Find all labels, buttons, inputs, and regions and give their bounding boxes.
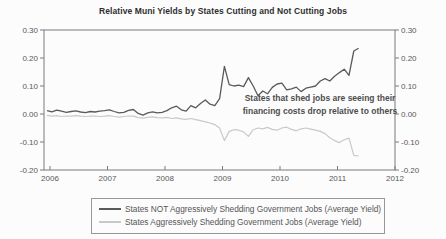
y-axis-label-right: 0.10	[401, 82, 417, 91]
y-axis-label-right: 0.20	[401, 54, 417, 63]
legend-item-shedding: States Aggressively Shedding Government …	[92, 215, 384, 228]
x-axis-label: 2008	[156, 174, 174, 183]
legend-line-swatch-dark	[99, 208, 121, 210]
x-axis-label: 2009	[214, 174, 232, 183]
x-axis-label: 2006	[41, 174, 59, 183]
annotation-line-1: States that shed jobs are seeing their	[238, 92, 402, 105]
x-axis-label: 2010	[271, 174, 289, 183]
series-line-1	[47, 115, 359, 156]
x-axis-label: 2007	[99, 174, 117, 183]
y-axis-label-left: 0.20	[22, 54, 38, 63]
y-axis-label-right: -0.10	[401, 138, 420, 147]
legend-label-shedding: States Aggressively Shedding Government …	[125, 217, 361, 227]
y-axis-label-right: 0.00	[401, 110, 417, 119]
y-axis-label-right: 0.30	[401, 26, 417, 35]
y-axis-label-left: -0.10	[20, 138, 39, 147]
y-axis-label-left: 0.00	[22, 110, 38, 119]
x-axis-label: 2011	[329, 174, 347, 183]
chart-annotation: States that shed jobs are seeing their f…	[238, 92, 402, 118]
y-axis-label-left: 0.30	[22, 26, 38, 35]
y-axis-label-left: -0.20	[20, 166, 39, 175]
legend-item-not-shedding: States NOT Aggressively Shedding Governm…	[92, 202, 384, 215]
chart-legend: States NOT Aggressively Shedding Governm…	[91, 198, 385, 234]
legend-label-not-shedding: States NOT Aggressively Shedding Governm…	[125, 204, 381, 214]
annotation-line-2: financing costs drop relative to others	[238, 105, 402, 118]
chart-screenshot: Relative Muni Yields by States Cutting a…	[0, 0, 446, 239]
legend-line-swatch-light	[99, 221, 121, 223]
x-axis-label: 2012	[386, 174, 404, 183]
y-axis-label-left: 0.10	[22, 82, 38, 91]
